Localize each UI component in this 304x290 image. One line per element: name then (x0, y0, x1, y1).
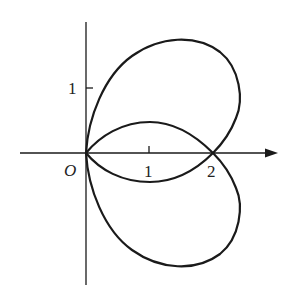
upper-lobe-curve (86, 40, 240, 153)
origin-label: O (64, 161, 76, 180)
x-axis-arrow-icon (265, 149, 278, 158)
x-tick-label-1: 1 (144, 162, 153, 181)
x-tick-label-2: 2 (207, 162, 216, 181)
lower-lobe-curve (86, 153, 240, 266)
polar-curve-diagram: O 1 2 1 (0, 0, 304, 290)
y-tick-label-1: 1 (68, 79, 77, 98)
